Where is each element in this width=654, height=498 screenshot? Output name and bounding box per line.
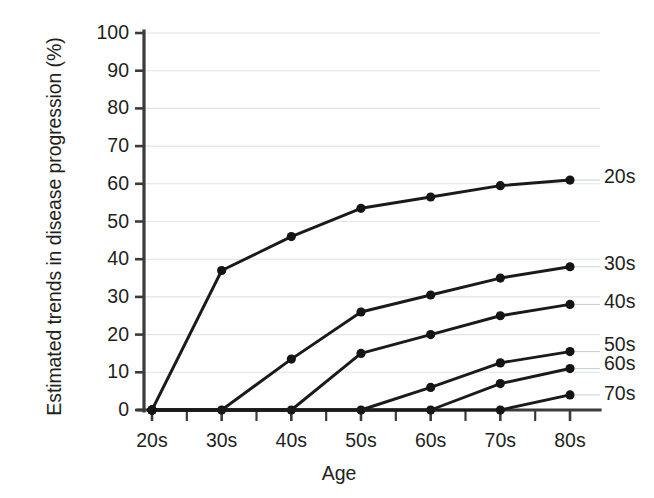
x-tick-label: 40s [256, 431, 326, 451]
series-line-20s [152, 180, 570, 410]
series-label-70s: 70s [604, 384, 635, 404]
data-point [565, 347, 574, 356]
y-tick-label: 100 [69, 23, 129, 43]
series-line-30s [152, 267, 570, 410]
data-point [217, 266, 226, 275]
line-chart: Estimated trends in disease progression … [0, 0, 654, 498]
data-point [565, 364, 574, 373]
data-point [496, 379, 505, 388]
data-point [496, 181, 505, 190]
x-axis-title-text: Age [322, 462, 357, 484]
series-label-20s: 20s [604, 167, 635, 187]
data-point [565, 390, 574, 399]
y-tick-label: 0 [69, 400, 129, 420]
data-point [426, 192, 435, 201]
data-point [565, 175, 574, 184]
y-tick-label: 10 [69, 362, 129, 382]
data-point [565, 300, 574, 309]
series-label-40s: 40s [604, 292, 635, 312]
x-tick-label: 50s [326, 431, 396, 451]
data-point [565, 262, 574, 271]
data-point [496, 273, 505, 282]
data-point [426, 290, 435, 299]
series-label-60s: 60s [604, 354, 635, 374]
y-tick-label: 60 [69, 174, 129, 194]
data-point [356, 349, 365, 358]
data-point [426, 330, 435, 339]
x-tick-label: 80s [535, 431, 605, 451]
data-point [496, 311, 505, 320]
y-tick-label: 40 [69, 249, 129, 269]
data-point [147, 405, 156, 414]
y-tick-label: 90 [69, 61, 129, 81]
x-axis-title: Age [0, 462, 654, 485]
data-point [496, 358, 505, 367]
data-point [287, 355, 296, 364]
data-point [356, 204, 365, 213]
x-tick-label: 60s [396, 431, 466, 451]
x-tick-label: 20s [117, 431, 187, 451]
x-tick-label: 30s [187, 431, 257, 451]
data-point [356, 307, 365, 316]
y-axis-title: Estimated trends in disease progression … [43, 27, 66, 427]
y-tick-label: 20 [69, 325, 129, 345]
data-point [287, 232, 296, 241]
y-tick-label: 70 [69, 136, 129, 156]
x-tick-label: 70s [465, 431, 535, 451]
y-tick-label: 80 [69, 98, 129, 118]
y-tick-label: 50 [69, 212, 129, 232]
y-tick-label: 30 [69, 287, 129, 307]
series-label-30s: 30s [604, 254, 635, 274]
data-point [496, 405, 505, 414]
data-point [426, 383, 435, 392]
series-line-60s [152, 369, 570, 410]
